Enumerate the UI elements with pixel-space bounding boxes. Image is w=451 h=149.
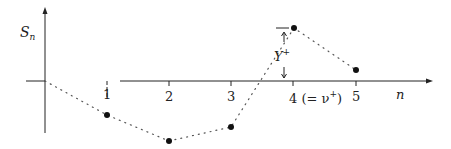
tick-label-4-paren: (= ν bbox=[301, 91, 329, 106]
y-axis-label-main: S bbox=[20, 24, 30, 40]
y-axis-label: Sn bbox=[20, 25, 35, 42]
tick-label-4-main: 4 bbox=[289, 91, 297, 106]
point-n4 bbox=[291, 25, 297, 31]
y-axis-label-sub: n bbox=[30, 32, 36, 42]
point-n1 bbox=[104, 112, 110, 118]
ladder-height-label-sup: + bbox=[283, 47, 291, 57]
ladder-height-label-main: Y bbox=[274, 49, 283, 64]
tick-label-2: 2 bbox=[165, 90, 173, 103]
point-n3 bbox=[228, 124, 234, 130]
tick-label-5: 5 bbox=[352, 90, 360, 103]
tick-label-1: 1 bbox=[103, 88, 111, 101]
tick-label-4: 4 (= ν+) bbox=[289, 90, 342, 105]
point-n5 bbox=[353, 67, 359, 73]
point-n2 bbox=[166, 138, 172, 144]
tick-label-4-sup: + bbox=[329, 89, 337, 99]
random-walk-diagram bbox=[0, 0, 451, 149]
tick-label-3: 3 bbox=[227, 90, 235, 103]
walk-path bbox=[45, 28, 356, 141]
x-axis-arrow-icon bbox=[426, 79, 433, 84]
tick-label-4-close: ) bbox=[337, 91, 342, 106]
y-axis-arrow-icon bbox=[43, 7, 48, 14]
x-axis-label: n bbox=[396, 88, 404, 101]
ladder-height-label: Y+ bbox=[274, 48, 290, 63]
